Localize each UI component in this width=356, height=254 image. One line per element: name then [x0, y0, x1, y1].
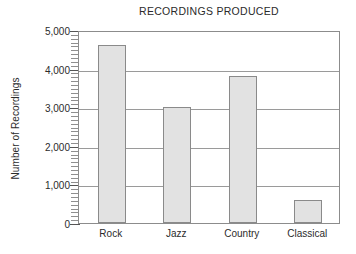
- y-axis-title: Number of Recordings: [10, 77, 21, 179]
- x-axis-tick-label-classical: Classical: [287, 228, 327, 239]
- x-axis-tick-labels: RockJazzCountryClassical: [78, 228, 340, 248]
- y-axis-major-tick: [70, 224, 80, 225]
- y-axis-tick-label: 3,000: [24, 103, 70, 114]
- y-axis-title-container: Number of Recordings: [6, 31, 24, 225]
- y-axis-tick-label: 1,000: [24, 180, 70, 191]
- bar-jazz: [163, 107, 191, 223]
- plot-area: [78, 31, 340, 224]
- x-axis-tick-label-jazz: Jazz: [166, 228, 187, 239]
- y-axis-tick-labels: 01,0002,0003,0004,0005,000: [24, 0, 70, 254]
- y-axis-tick-label: 5,000: [24, 26, 70, 37]
- bar-classical: [294, 200, 322, 223]
- bar-chart-figure: RECORDINGS PRODUCED Number of Recordings…: [0, 0, 356, 254]
- y-axis-tick-label: 0: [24, 219, 70, 230]
- x-axis-tick-label-rock: Rock: [99, 228, 122, 239]
- x-axis-tick-label-country: Country: [224, 228, 259, 239]
- bar-rock: [98, 45, 126, 223]
- y-axis-tick-label: 2,000: [24, 141, 70, 152]
- chart-title: RECORDINGS PRODUCED: [78, 5, 340, 17]
- y-axis-tick-label: 4,000: [24, 64, 70, 75]
- bar-country: [229, 76, 257, 223]
